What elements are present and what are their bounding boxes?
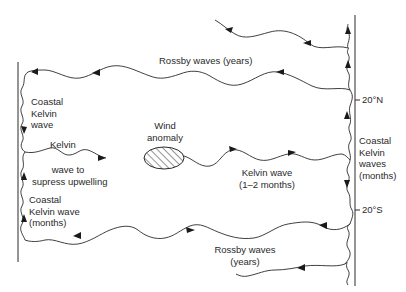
latitude-20n-label: 20°N	[362, 94, 383, 106]
arrow-left-icon	[73, 232, 81, 239]
arrow-up-icon	[345, 26, 351, 34]
arrow-up-icon	[344, 111, 350, 119]
rossby-north-label: Rossby waves (years)	[159, 55, 252, 67]
arrow-right-icon	[98, 155, 106, 161]
arrow-up-icon	[21, 172, 27, 180]
rossby-wave-top	[215, 20, 348, 48]
arrow-right-icon	[288, 150, 296, 156]
kelvin-west-label-line1: Kelvin	[50, 139, 76, 151]
kelvin-west-label: wave to supress upwelling	[32, 164, 104, 187]
arrow-left-icon	[319, 222, 327, 229]
rossby-wave-north	[28, 66, 350, 90]
arrow-left-icon	[297, 264, 305, 271]
coastal-kelvin-east-label: Coastal Kelvin waves (months)	[359, 135, 396, 181]
coastal-kelvin-west-north	[21, 72, 28, 152]
coastal-kelvin-west-north-label: Coastal Kelvin wave	[31, 96, 63, 131]
wind-anomaly-label: Wind anomaly	[140, 120, 190, 143]
arrow-down-icon	[344, 180, 350, 188]
kelvin-east-label: Kelvin wave (1–2 months)	[235, 167, 299, 190]
arrow-left-icon	[92, 69, 100, 76]
kelvin-wave-east	[184, 150, 350, 167]
rossby-south-label: Rossby waves (years)	[210, 244, 280, 267]
coastal-kelvin-west-south-label: Coastal Kelvin wave (months)	[29, 194, 80, 229]
wind-anomaly-ellipse	[144, 147, 184, 169]
arrow-left-icon	[31, 68, 38, 75]
arrow-right-icon	[229, 146, 237, 152]
arrow-up-icon	[345, 60, 351, 68]
coastal-kelvin-west-south	[21, 152, 25, 240]
arrow-left-icon	[303, 40, 311, 46]
latitude-20s-label: 20°S	[362, 204, 383, 216]
arrow-left-icon	[276, 69, 284, 75]
wave-diagram: Rossby waves (years) 20°N 20°S Coastal K…	[0, 0, 406, 292]
arrow-left-icon	[186, 227, 195, 233]
